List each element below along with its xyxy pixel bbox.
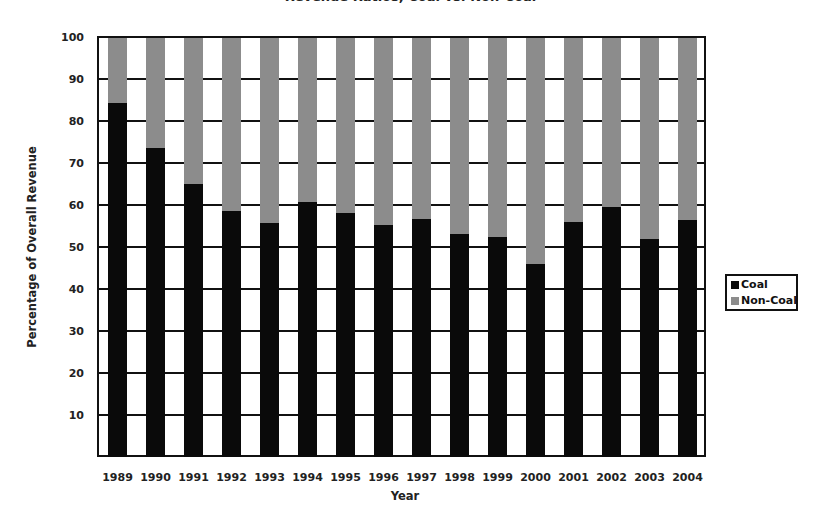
bar-segment-coal bbox=[260, 223, 279, 457]
y-tick-label: 20 bbox=[44, 367, 84, 380]
y-tick-label: 50 bbox=[44, 241, 84, 254]
x-tick-label: 2000 bbox=[516, 471, 556, 484]
y-tick-label: 70 bbox=[44, 157, 84, 170]
x-axis-label: Year bbox=[391, 489, 420, 503]
bar-segment-non-coal bbox=[488, 38, 507, 238]
bar-segment-coal bbox=[412, 219, 431, 457]
bar-1999 bbox=[488, 38, 507, 457]
y-tick-label: 80 bbox=[44, 115, 84, 128]
bar-1989 bbox=[108, 38, 127, 457]
bar-segment-coal bbox=[146, 148, 165, 457]
bar-segment-coal bbox=[602, 207, 621, 457]
bar-2003 bbox=[640, 38, 659, 457]
y-axis-label: Percentage of Overall Revenue bbox=[25, 146, 39, 347]
x-tick-label: 1991 bbox=[174, 471, 214, 484]
bar-1996 bbox=[374, 38, 393, 457]
chart-title: Revenue Ratios, Coal vs. Non-Coal bbox=[0, 0, 821, 4]
bar-segment-coal bbox=[222, 211, 241, 457]
bar-1990 bbox=[146, 38, 165, 457]
y-tick-label: 40 bbox=[44, 283, 84, 296]
y-tick-label: 90 bbox=[44, 73, 84, 86]
x-tick-label: 2003 bbox=[630, 471, 670, 484]
bar-segment-non-coal bbox=[146, 38, 165, 149]
bar-segment-coal bbox=[640, 239, 659, 457]
bar-segment-non-coal bbox=[602, 38, 621, 208]
x-tick-label: 2002 bbox=[592, 471, 632, 484]
legend-swatch-non-coal bbox=[731, 297, 739, 305]
x-tick-label: 2001 bbox=[554, 471, 594, 484]
x-tick-label: 1993 bbox=[250, 471, 290, 484]
bar-2004 bbox=[678, 38, 697, 457]
bar-segment-non-coal bbox=[336, 38, 355, 214]
x-tick-label: 1994 bbox=[288, 471, 328, 484]
y-tick-label: 60 bbox=[44, 199, 84, 212]
bar-1993 bbox=[260, 38, 279, 457]
x-tick-label: 1995 bbox=[326, 471, 366, 484]
x-tick-label: 1998 bbox=[440, 471, 480, 484]
bar-segment-non-coal bbox=[108, 38, 127, 104]
bar-segment-non-coal bbox=[298, 38, 317, 203]
x-tick-label: 1996 bbox=[364, 471, 404, 484]
x-tick-label: 1999 bbox=[478, 471, 518, 484]
bar-segment-coal bbox=[450, 234, 469, 457]
x-tick-label: 1990 bbox=[136, 471, 176, 484]
bar-2002 bbox=[602, 38, 621, 457]
bar-segment-non-coal bbox=[412, 38, 431, 220]
legend-swatch-coal bbox=[731, 281, 739, 289]
bar-segment-coal bbox=[336, 213, 355, 457]
bar-segment-non-coal bbox=[526, 38, 545, 265]
legend-item-non-coal: Non-Coal bbox=[731, 294, 797, 307]
bar-segment-coal bbox=[374, 225, 393, 457]
bar-segment-coal bbox=[678, 220, 697, 457]
bar-segment-non-coal bbox=[222, 38, 241, 212]
bar-segment-non-coal bbox=[678, 38, 697, 221]
plot-area bbox=[97, 36, 706, 457]
bar-segment-coal bbox=[298, 202, 317, 457]
bar-1991 bbox=[184, 38, 203, 457]
bar-segment-non-coal bbox=[640, 38, 659, 240]
bar-segment-coal bbox=[526, 264, 545, 457]
x-tick-label: 1992 bbox=[212, 471, 252, 484]
y-tick-label: 30 bbox=[44, 325, 84, 338]
bar-segment-non-coal bbox=[564, 38, 583, 223]
bar-2001 bbox=[564, 38, 583, 457]
legend: Coal Non-Coal bbox=[725, 274, 798, 311]
x-tick-label: 2004 bbox=[668, 471, 708, 484]
bar-segment-coal bbox=[488, 237, 507, 457]
legend-label-non-coal: Non-Coal bbox=[741, 294, 797, 307]
bar-segment-coal bbox=[184, 184, 203, 457]
bar-1997 bbox=[412, 38, 431, 457]
x-tick-label: 1997 bbox=[402, 471, 442, 484]
bar-segment-coal bbox=[564, 222, 583, 457]
bar-segment-non-coal bbox=[450, 38, 469, 235]
bar-segment-non-coal bbox=[374, 38, 393, 226]
legend-item-coal: Coal bbox=[731, 278, 768, 291]
bar-1995 bbox=[336, 38, 355, 457]
bar-2000 bbox=[526, 38, 545, 457]
y-tick-label: 100 bbox=[44, 31, 84, 44]
bar-segment-non-coal bbox=[260, 38, 279, 224]
bar-1992 bbox=[222, 38, 241, 457]
bar-1998 bbox=[450, 38, 469, 457]
bar-segment-non-coal bbox=[184, 38, 203, 185]
legend-label-coal: Coal bbox=[741, 278, 768, 291]
bar-1994 bbox=[298, 38, 317, 457]
x-tick-label: 1989 bbox=[98, 471, 138, 484]
bar-segment-coal bbox=[108, 103, 127, 457]
y-tick-label: 10 bbox=[44, 409, 84, 422]
